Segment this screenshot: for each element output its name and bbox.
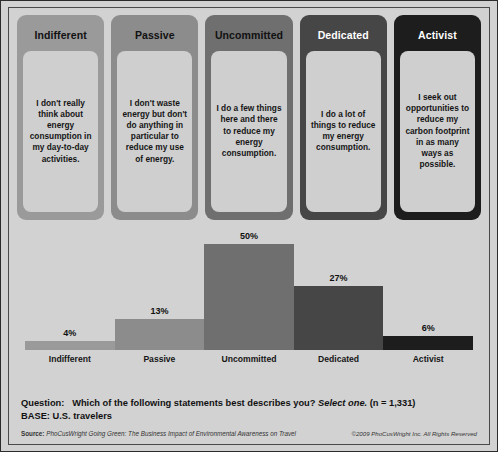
x-axis-label: Activist: [383, 354, 473, 364]
question-text: Which of the following statements best d…: [72, 398, 315, 408]
copyright-notice: ©2009 PhoCusWright Inc. All Rights Reser…: [351, 430, 477, 438]
bar-chart: 4%13%50%27%6% IndifferentPassiveUncommit…: [9, 220, 489, 388]
segment-title: Activist: [400, 22, 475, 51]
bar-value-label: 27%: [294, 274, 384, 283]
bar-rect: [25, 341, 115, 350]
segment-title: Uncommitted: [211, 22, 286, 51]
segment-statement-panel: I seek out opportunities to reduce my ca…: [400, 51, 475, 212]
segment-card-indifferent: Indifferent I don't really think about e…: [17, 15, 104, 220]
bar-column: 6%: [383, 232, 473, 350]
question-instruction: Select one.: [318, 398, 367, 408]
segment-statement-text: I don't really think about energy consum…: [28, 98, 93, 165]
bar-rect: [383, 336, 473, 350]
bar-series: 4%13%50%27%6%: [25, 232, 473, 350]
segment-card-dedicated: Dedicated I do a lot of things to reduce…: [300, 15, 387, 220]
question-sample-size: (n = 1,331): [370, 398, 416, 408]
segment-card-passive: Passive I don't waste energy but don't d…: [111, 15, 198, 220]
segment-statement-panel: I don't waste energy but don't do anythi…: [117, 51, 192, 212]
bar-column: 50%: [204, 232, 294, 350]
segment-statement-text: I do a lot of things to reduce my energy…: [311, 109, 376, 154]
segment-statement-text: I don't waste energy but don't do anythi…: [122, 98, 187, 165]
segment-card-uncommitted: Uncommitted I do a few things here and t…: [205, 15, 292, 220]
x-axis-label: Dedicated: [294, 354, 384, 364]
source-citation: PhoCusWright Going Green: The Business I…: [46, 430, 296, 437]
bar-rect: [294, 286, 384, 350]
bar-value-label: 6%: [383, 324, 473, 333]
segment-card-row: Indifferent I don't really think about e…: [9, 8, 489, 220]
x-axis-label: Uncommitted: [204, 354, 294, 364]
segment-statement-text: I seek out opportunities to reduce my ca…: [405, 92, 470, 170]
source-row: Source: PhoCusWright Going Green: The Bu…: [21, 430, 477, 438]
bar-column: 27%: [294, 232, 384, 350]
figure-inner-frame: Indifferent I don't really think about e…: [8, 7, 490, 445]
base-line: BASE: U.S. travelers: [21, 410, 477, 423]
segment-statement-panel: I do a lot of things to reduce my energy…: [306, 51, 381, 212]
segment-title: Dedicated: [306, 22, 381, 51]
figure-footer: Question: Which of the following stateme…: [9, 388, 489, 444]
bar-chart-plot: 4%13%50%27%6%: [17, 232, 481, 350]
figure-container: Indifferent I don't really think about e…: [0, 0, 498, 452]
segment-statement-panel: I do a few things here and there to redu…: [211, 51, 286, 212]
x-axis-label: Passive: [115, 354, 205, 364]
segment-title: Passive: [117, 22, 192, 51]
bar-chart-x-axis-labels: IndifferentPassiveUncommittedDedicatedAc…: [17, 354, 481, 364]
segment-title: Indifferent: [23, 22, 98, 51]
question-label: Question:: [21, 398, 64, 408]
segment-card-activist: Activist I seek out opportunities to red…: [394, 15, 481, 220]
segment-statement-text: I do a few things here and there to redu…: [216, 103, 281, 159]
bar-column: 13%: [115, 232, 205, 350]
source-line: Source: PhoCusWright Going Green: The Bu…: [21, 430, 296, 438]
base-label: BASE:: [21, 411, 50, 421]
segment-statement-panel: I don't really think about energy consum…: [23, 51, 98, 212]
bar-column: 4%: [25, 232, 115, 350]
question-line: Question: Which of the following stateme…: [21, 397, 477, 410]
base-text: U.S. travelers: [53, 411, 112, 421]
bar-rect: [115, 319, 205, 350]
bar-value-label: 13%: [115, 307, 205, 316]
bar-value-label: 4%: [25, 329, 115, 338]
source-label: Source:: [21, 430, 44, 437]
bar-value-label: 50%: [204, 232, 294, 241]
bar-rect: [204, 244, 294, 350]
x-axis-label: Indifferent: [25, 354, 115, 364]
